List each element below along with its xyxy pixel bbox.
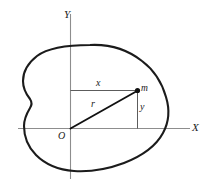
rigid-body-outline (23, 45, 168, 171)
mass-point-dot (135, 88, 140, 93)
y-axis-label: Y (64, 9, 70, 20)
figure-canvas (0, 0, 211, 196)
y-component-label: y (140, 102, 144, 112)
x-component-label: x (96, 78, 100, 88)
mass-point-label: m (141, 84, 148, 94)
origin-label: O (58, 131, 65, 141)
figure-container: Y X O x y r m (0, 0, 211, 196)
radius-vector-label: r (91, 99, 95, 109)
position-vector (71, 91, 138, 129)
x-axis-label: X (192, 122, 199, 133)
